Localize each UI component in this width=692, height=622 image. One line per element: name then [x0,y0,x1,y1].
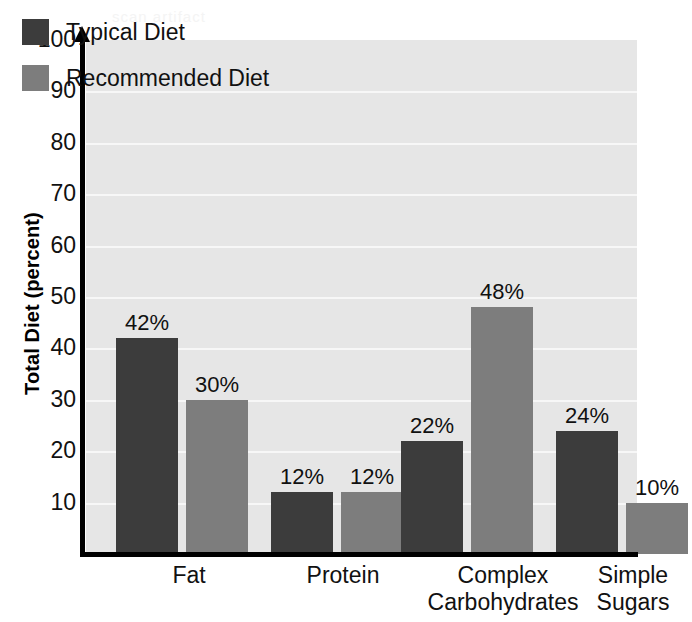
legend-swatch-typical-diet [22,19,49,45]
chart-legend: Typical Diet Recommended Diet [22,19,269,111]
legend-item-recommended-diet: Recommended Diet [22,65,269,91]
bar-value-label: 24% [546,405,628,427]
bar-simple-sugars-typical-diet [556,431,618,554]
y-axis-title: Total Diet (percent) [21,164,44,444]
y-axis-line [80,40,85,556]
legend-label-recommended-diet: Recommended Diet [66,67,269,90]
x-axis-label-line: Simple [558,562,692,589]
bar-value-label: 42% [106,312,188,334]
grid-line [86,194,637,196]
x-axis-label-protein: Protein [273,562,413,589]
y-axis-tick-80: 80 [2,131,76,154]
bar-protein-typical-diet [271,492,333,554]
legend-item-typical-diet: Typical Diet [22,19,269,45]
bar-fat-recommended-diet [186,400,248,554]
bar-fat-typical-diet [116,338,178,554]
bar-value-label: 22% [391,415,473,437]
bar-value-label: 10% [616,477,692,499]
grid-line [86,246,637,248]
x-axis-label-line: Sugars [558,589,692,616]
bar-value-label: 48% [461,281,543,303]
x-axis-label-line: Protein [273,562,413,589]
y-axis-tick-10: 10 [2,491,76,514]
bar-complex-carbohydrates-recommended-diet [471,307,533,554]
bar-complex-carbohydrates-typical-diet [401,441,463,554]
bar-protein-recommended-diet [341,492,403,554]
legend-label-typical-diet: Typical Diet [66,21,185,44]
grid-line [86,297,637,299]
x-axis-line [80,552,638,557]
legend-swatch-recommended-diet [22,65,49,91]
x-axis-label-line: Fat [119,562,259,589]
x-axis-label-simple-sugars: SimpleSugars [558,562,692,616]
x-axis-label-fat: Fat [119,562,259,589]
grid-line [86,143,637,145]
bar-simple-sugars-recommended-diet [626,503,688,554]
bar-value-label: 30% [176,374,258,396]
bar-value-label: 12% [331,466,413,488]
